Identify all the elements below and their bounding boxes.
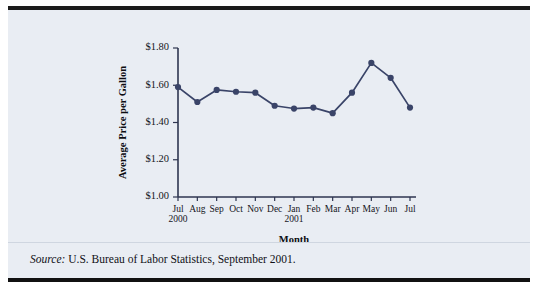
data-point-marker <box>272 103 278 109</box>
figure-container: $1.00$1.20$1.40$1.60$1.80JulAugSepOctNov… <box>8 6 530 282</box>
data-point-marker <box>233 89 239 95</box>
chart-plot-area: $1.00$1.20$1.40$1.60$1.80JulAugSepOctNov… <box>8 10 530 242</box>
x-axis-tick-label: Aug <box>189 204 206 214</box>
data-point-marker <box>330 110 336 116</box>
x-axis-tick-label: Nov <box>247 204 264 214</box>
x-axis-tick-label: Feb <box>306 204 321 214</box>
y-axis-tick-label: $1.40 <box>145 116 169 127</box>
y-axis-tick-label: $1.20 <box>145 153 169 164</box>
x-axis-tick-label: Sep <box>210 204 225 214</box>
x-axis-tick-label: Apr <box>345 204 361 214</box>
line-chart: $1.00$1.20$1.40$1.60$1.80JulAugSepOctNov… <box>8 10 530 242</box>
data-point-marker <box>310 105 316 111</box>
x-axis-title: Month <box>279 234 309 242</box>
data-point-marker <box>175 84 181 90</box>
data-point-marker <box>407 105 413 111</box>
x-axis-tick-label: Mar <box>325 204 342 214</box>
source-divider <box>8 242 530 243</box>
source-citation: Source: U.S. Bureau of Labor Statistics,… <box>30 253 296 265</box>
x-axis-tick-label: Jun <box>384 204 397 214</box>
y-axis-tick-label: $1.60 <box>145 79 169 90</box>
x-axis-tick-label: Jul <box>404 204 415 214</box>
source-label: Source: <box>30 253 65 265</box>
data-point-marker <box>388 75 394 81</box>
data-point-marker <box>349 90 355 96</box>
x-axis-year-label: 2001 <box>285 214 304 224</box>
y-axis-title: Average Price per Gallon <box>117 66 128 179</box>
data-point-marker <box>291 105 297 111</box>
y-axis-tick-label: $1.00 <box>145 190 169 201</box>
x-axis-tick-label: Oct <box>229 204 243 214</box>
source-text: U.S. Bureau of Labor Statistics, Septemb… <box>65 253 295 265</box>
x-axis-tick-label: Jan <box>288 204 301 214</box>
x-axis-year-label: 2000 <box>169 214 188 224</box>
x-axis-tick-label: Jul <box>172 204 183 214</box>
y-axis-tick-label: $1.80 <box>145 41 169 52</box>
data-point-marker <box>194 99 200 105</box>
data-point-marker <box>214 87 220 93</box>
data-point-marker <box>368 60 374 66</box>
data-point-marker <box>252 90 258 96</box>
x-axis-tick-label: May <box>363 204 381 214</box>
x-axis-tick-label: Dec <box>267 204 282 214</box>
